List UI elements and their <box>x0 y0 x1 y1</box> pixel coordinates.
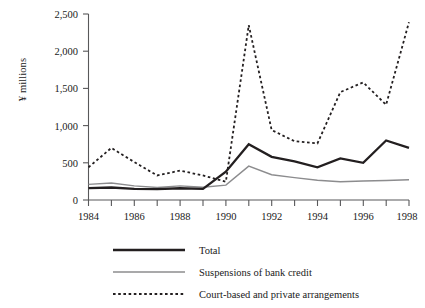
y-tick-marks <box>83 14 89 200</box>
x-tick-label: 1994 <box>307 211 329 222</box>
y-tick-label: 0 <box>73 195 78 206</box>
line-chart: 2,500 2,000 1,500 1,000 500 0 <box>0 0 425 308</box>
legend-label-court: Court-based and private arrangements <box>199 289 359 300</box>
y-tick-labels: 2,500 2,000 1,500 1,000 500 0 <box>54 9 78 206</box>
legend-label-total: Total <box>199 245 221 256</box>
y-tick-label: 2,000 <box>54 46 78 57</box>
x-tick-label: 1998 <box>397 211 418 222</box>
legend-label-suspensions: Suspensions of bank credit <box>199 267 312 278</box>
x-tick-labels: 1984 1986 1988 1990 1992 1994 1996 1998 <box>78 211 418 222</box>
chart-legend: Total Suspensions of bank credit Court-b… <box>113 245 359 300</box>
chart-figure: ¥ millions 2,500 2,000 1,500 1,000 500 0 <box>0 0 425 308</box>
series-line-total <box>89 140 410 189</box>
x-tick-marks <box>89 200 410 206</box>
x-tick-label: 1992 <box>261 211 282 222</box>
series-line-suspensions-of-bank-credit <box>89 166 410 187</box>
series-line-court-based-and-private-arrangements <box>89 22 410 182</box>
x-tick-label: 1986 <box>124 211 145 222</box>
x-tick-label: 1990 <box>215 211 236 222</box>
y-tick-label: 2,500 <box>54 9 78 20</box>
y-tick-label: 1,000 <box>54 121 78 132</box>
x-tick-label: 1984 <box>78 211 100 222</box>
x-tick-label: 1988 <box>170 211 191 222</box>
y-tick-label: 500 <box>62 158 78 169</box>
x-tick-label: 1996 <box>353 211 374 222</box>
y-tick-label: 1,500 <box>54 83 78 94</box>
